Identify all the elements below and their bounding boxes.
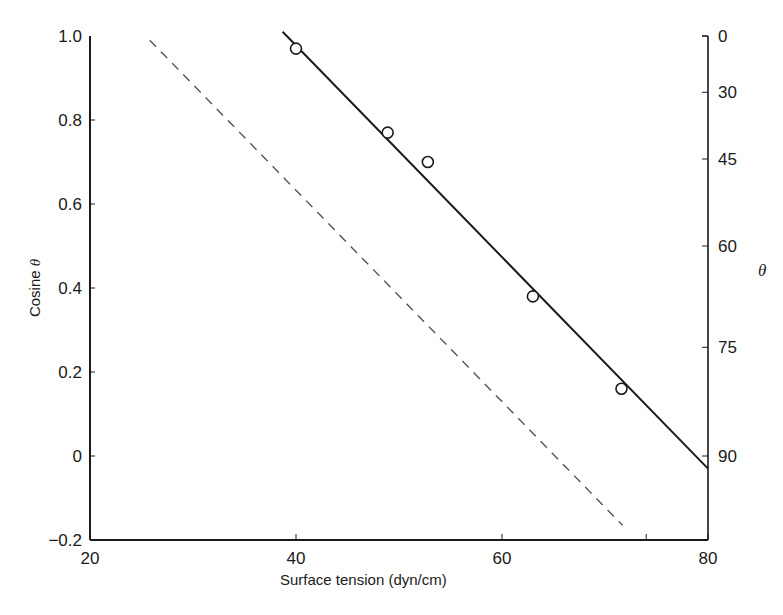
secondary-y-tick-label: 90 <box>718 447 737 466</box>
data-point-circle <box>291 43 302 54</box>
x-tick-label: 20 <box>81 549 100 568</box>
y-axis-title: Cosine θ <box>26 258 43 317</box>
x-tick-label: 80 <box>699 549 718 568</box>
theta-symbol: θ <box>27 258 43 266</box>
data-point-circle <box>382 127 393 138</box>
y-tick-label: 0.8 <box>58 111 82 130</box>
fitted-solid-line <box>283 32 708 469</box>
y-tick-label: 0.6 <box>58 195 82 214</box>
y-axis-title-text: Cosine <box>26 266 43 317</box>
y-axis-ticks: 1.00.80.60.40.20−0.2 <box>48 27 95 550</box>
secondary-y-axis-title: θ <box>758 261 766 280</box>
y-tick-label: 0 <box>73 447 82 466</box>
y-tick-label: 0.2 <box>58 363 82 382</box>
reference-dashed-line <box>150 40 623 525</box>
chart: 20406080 1.00.80.60.40.20−0.2 0304560759… <box>0 0 783 615</box>
secondary-y-tick-label: 0 <box>718 27 727 46</box>
data-point-circle <box>616 383 627 394</box>
y-tick-label: −0.2 <box>48 531 82 550</box>
data-point-circle <box>527 291 538 302</box>
x-tick-label: 40 <box>287 549 306 568</box>
data-points <box>291 43 627 394</box>
axes <box>90 36 708 540</box>
plot-lines <box>150 32 708 526</box>
secondary-y-tick-label: 60 <box>718 237 737 256</box>
y-tick-label: 0.4 <box>58 279 82 298</box>
secondary-y-tick-label: 45 <box>718 150 737 169</box>
secondary-y-tick-label: 75 <box>718 338 737 357</box>
x-axis-title: Surface tension (dyn/cm) <box>280 571 447 588</box>
x-tick-label: 60 <box>493 549 512 568</box>
y-tick-label: 1.0 <box>58 27 82 46</box>
data-point-circle <box>422 157 433 168</box>
secondary-y-tick-label: 30 <box>718 83 737 102</box>
